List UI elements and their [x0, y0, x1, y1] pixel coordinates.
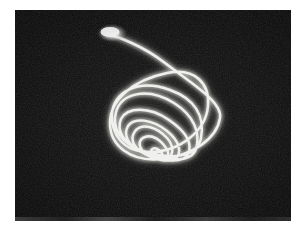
screenshot-root [0, 0, 302, 231]
light-trail-figure [15, 10, 291, 221]
photograph-plate [15, 10, 291, 221]
start-highlight [97, 24, 127, 42]
